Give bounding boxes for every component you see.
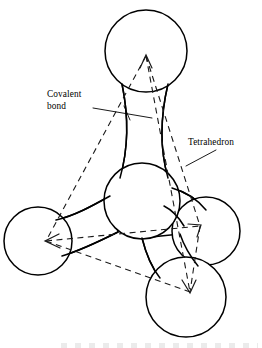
label-tetrahedron: Tetrahedron	[188, 137, 234, 147]
label-covalent-bond-line2: bond	[47, 101, 66, 111]
label-tetrahedron-line1: Tetrahedron	[188, 137, 234, 147]
leader-tetrahedron	[186, 150, 216, 166]
cropped-caption-artifact	[58, 343, 258, 348]
molecule-diagram: Covalent bond Tetrahedron	[0, 0, 262, 348]
atom-right	[172, 197, 240, 265]
atom-bottom-front	[146, 257, 226, 337]
figure-root: Covalent bond Tetrahedron	[0, 0, 262, 348]
label-covalent-bond-line1: Covalent	[47, 89, 82, 99]
atom-top	[105, 10, 187, 92]
label-covalent-bond: Covalent bond	[47, 89, 82, 111]
atom-bottom-left	[4, 207, 72, 275]
